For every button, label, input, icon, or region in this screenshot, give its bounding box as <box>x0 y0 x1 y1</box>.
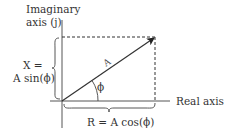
brace-r <box>64 103 155 112</box>
r-expression-label: R = A cos(ϕ) <box>87 116 154 128</box>
real-axis-label: Real axis <box>176 95 224 107</box>
x-expression-label: A sin(ϕ) <box>13 72 55 84</box>
vector-a-arrow <box>62 38 154 101</box>
angle-phi-label: ϕ <box>97 81 104 93</box>
imaginary-axis-label-line1: Imaginary <box>26 3 80 15</box>
brace-x <box>52 38 60 99</box>
x-equals-label: X = <box>23 59 43 71</box>
phasor-diagram: A Imaginary axis (j) X = A sin(ϕ) ϕ R = … <box>0 0 225 136</box>
imaginary-axis-label-line2: axis (j) <box>26 16 62 28</box>
